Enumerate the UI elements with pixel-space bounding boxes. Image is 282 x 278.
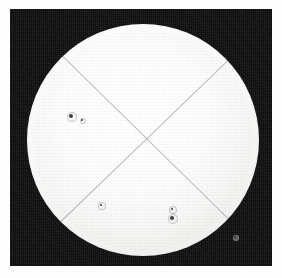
solar-photograph-page bbox=[0, 0, 282, 278]
photographic-plate bbox=[10, 9, 272, 266]
sunspot-penumbra-group-c-upper bbox=[169, 206, 177, 214]
solar-disk bbox=[27, 24, 259, 256]
